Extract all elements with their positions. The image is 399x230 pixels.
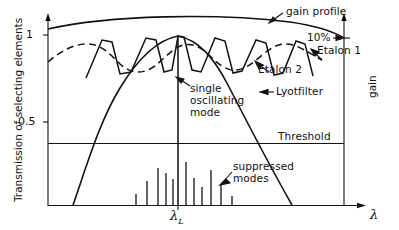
annotation-gain-profile: gain profile (286, 5, 346, 17)
suppressed-line-1: suppressed (233, 160, 294, 172)
y-axis-left-arrow-icon (45, 13, 50, 21)
y-axis-left-title: Transmission of selecting elements (12, 18, 24, 202)
y-axis-right-title: gain (366, 75, 378, 98)
x-tick-label-lambda-l: λL (170, 208, 184, 226)
annotation-single-oscillating-mode: singleoscillatingmode (190, 82, 244, 118)
x-axis-title: λ (370, 207, 378, 222)
single-mode-line-1: single (190, 82, 222, 94)
gain-profile-curve (48, 17, 344, 38)
laser-mode-selection-figure: Transmission of selecting elements 1 0.5… (0, 0, 399, 230)
annotation-lyotfilter: Lyotfilter (276, 85, 323, 97)
annotation-gain-percent: 10% (307, 31, 331, 43)
suppressed-line-2: modes (233, 172, 269, 184)
lambda-subscript: L (178, 217, 183, 226)
x-axis-arrow-icon (357, 203, 366, 209)
y-tick-label-1: 1 (26, 28, 33, 41)
lambda-glyph: λ (170, 208, 178, 223)
single-mode-line-2: oscillating (190, 94, 244, 106)
annotation-threshold: Threshold (278, 130, 331, 142)
y-tick-label-0-5: 0.5 (18, 115, 36, 128)
mode-comb (136, 162, 232, 206)
single-mode-line-3: mode (190, 106, 220, 118)
annotation-suppressed-modes: suppressedmodes (233, 160, 294, 184)
annotation-etalon1: Etalon 1 (317, 44, 361, 56)
annotation-etalon2: Etalon 2 (258, 63, 302, 75)
